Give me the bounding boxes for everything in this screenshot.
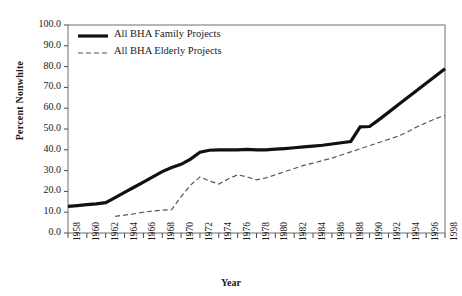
x-axis-tick-label: 1986 xyxy=(336,222,346,241)
chart-container: Percent Nonwhite Year 0.010.020.030.040.… xyxy=(0,0,462,296)
x-axis-tick-label: 1976 xyxy=(242,222,252,241)
x-axis-tick-label: 1994 xyxy=(411,222,421,241)
y-axis-tick-label: 10.0 xyxy=(44,205,62,216)
x-axis-title: Year xyxy=(0,277,462,288)
x-axis-tick-label: 1990 xyxy=(374,222,384,241)
x-axis-tick-label: 1962 xyxy=(110,222,120,241)
y-axis-tick-label: 50.0 xyxy=(44,122,62,133)
x-axis-tick-label: 1960 xyxy=(91,222,101,241)
x-axis-tick-label: 1996 xyxy=(430,222,440,241)
chart-series-line xyxy=(115,115,445,216)
x-axis-tick-label: 1970 xyxy=(185,222,195,241)
y-axis-tick-label: 60.0 xyxy=(44,101,62,112)
legend-item-label: All BHA Family Projects xyxy=(114,28,220,39)
x-axis-tick-label: 1980 xyxy=(279,222,289,241)
y-axis-tick-label: 0.0 xyxy=(49,226,62,237)
x-axis-tick-label: 1978 xyxy=(261,222,271,241)
x-axis-tick-label: 1958 xyxy=(72,222,82,241)
x-axis-tick-label: 1974 xyxy=(223,222,233,241)
y-axis-title: Percent Nonwhite xyxy=(14,46,25,156)
x-axis-tick-label: 1984 xyxy=(317,222,327,241)
x-axis-tick-label: 1972 xyxy=(204,222,214,241)
y-axis-tick-label: 90.0 xyxy=(44,39,62,50)
x-axis-tick-label: 1992 xyxy=(392,222,402,241)
x-axis-tick-label: 1982 xyxy=(298,222,308,241)
legend-item-label: All BHA Elderly Projects xyxy=(114,45,222,56)
x-axis-tick-label: 1988 xyxy=(355,222,365,241)
chart-series-line xyxy=(68,69,445,207)
plot-frame xyxy=(68,25,445,233)
y-axis-tick-label: 30.0 xyxy=(44,164,62,175)
x-axis-tick-label: 1966 xyxy=(147,222,157,241)
chart-plot-area xyxy=(0,0,462,296)
x-axis-tick-label: 1998 xyxy=(449,222,459,241)
x-axis-tick-label: 1968 xyxy=(166,222,176,241)
y-axis-tick-label: 100.0 xyxy=(39,18,62,29)
y-axis-tick-label: 40.0 xyxy=(44,143,62,154)
y-axis-tick-label: 70.0 xyxy=(44,80,62,91)
x-axis-tick-label: 1964 xyxy=(129,222,139,241)
y-axis-tick-label: 20.0 xyxy=(44,184,62,195)
y-axis-tick-label: 80.0 xyxy=(44,60,62,71)
